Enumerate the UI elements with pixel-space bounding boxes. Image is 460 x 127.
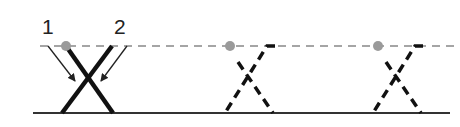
diagram-canvas bbox=[0, 0, 460, 127]
label-1: 1 bbox=[42, 16, 54, 37]
label-2: 2 bbox=[114, 16, 126, 37]
pivot-dot bbox=[373, 41, 383, 51]
pivot-dot bbox=[225, 41, 235, 51]
diagram: 1 2 bbox=[0, 0, 460, 127]
dashed-crossing-2 bbox=[225, 41, 275, 113]
pivot-dot bbox=[61, 41, 71, 51]
dashed-crossing-3 bbox=[373, 41, 423, 113]
arrow-2 bbox=[101, 46, 127, 81]
solid-crossing bbox=[48, 41, 127, 113]
